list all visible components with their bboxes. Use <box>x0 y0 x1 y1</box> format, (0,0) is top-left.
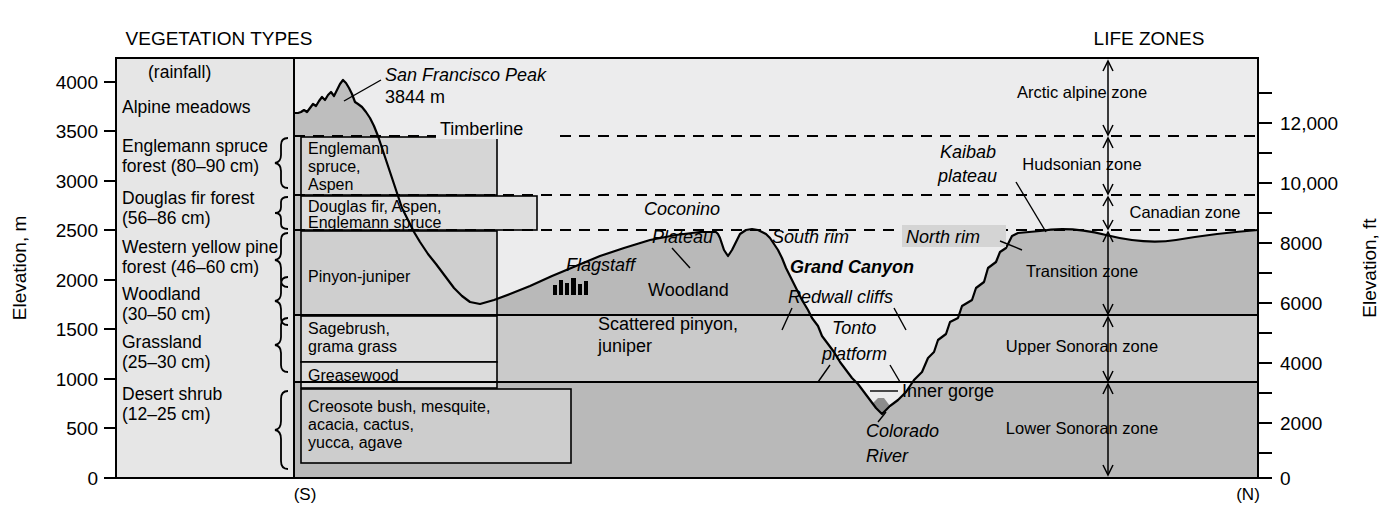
label-grand-canyon: Grand Canyon <box>790 257 914 277</box>
species-englemann-line2: spruce, <box>308 158 360 175</box>
left-tick-3500: 3500 <box>56 121 98 142</box>
left-tick-0: 0 <box>87 468 98 489</box>
veg-alpine-meadows: Alpine meadows <box>122 97 251 117</box>
species-douglas-line1: Douglas fir, Aspen, <box>308 198 441 215</box>
veg-westernpine-line2: forest (46–60 cm) <box>122 257 259 277</box>
zone-arctic-alpine: Arctic alpine zone <box>1017 83 1147 101</box>
right-tick-12000: 12,000 <box>1280 113 1338 134</box>
label-kaibab-2: plateau <box>937 166 997 186</box>
right-axis-title: Elevation, ft <box>1359 218 1380 318</box>
zone-canadian: Canadian zone <box>1129 203 1240 221</box>
label-redwall-cliffs: Redwall cliffs <box>788 287 893 307</box>
label-scattered-1: Scattered pinyon, <box>598 314 738 334</box>
left-tick-2000: 2000 <box>56 270 98 291</box>
label-flagstaff: Flagstaff <box>566 255 637 275</box>
label-peak-elevation: 3844 m <box>385 87 445 107</box>
veg-grassland-line1: Grassland <box>122 332 202 352</box>
south-marker: (S) <box>294 485 317 504</box>
right-tick-4000: 4000 <box>1280 353 1322 374</box>
label-woodland-mid: Woodland <box>648 280 729 300</box>
left-axis <box>104 82 116 478</box>
label-colorado-2: River <box>866 446 909 466</box>
species-sagebrush-line2: grama grass <box>308 338 397 355</box>
left-tick-1500: 1500 <box>56 319 98 340</box>
label-kaibab-1: Kaibab <box>940 142 996 162</box>
label-san-francisco-peak: San Francisco Peak <box>385 65 547 85</box>
veg-englemann-line2: forest (80–90 cm) <box>122 156 259 176</box>
label-scattered-2: juniper <box>597 336 652 356</box>
label-coconino-2: Plateau <box>652 227 713 247</box>
figure-root: VEGETATION TYPES LIFE ZONES Englemann sp… <box>0 0 1394 524</box>
species-englemann-line3: Aspen <box>308 176 353 193</box>
right-tick-2000: 2000 <box>1280 413 1322 434</box>
left-tick-4000: 4000 <box>56 72 98 93</box>
veg-douglas-line2: (56–86 cm) <box>122 208 211 228</box>
left-tick-3000: 3000 <box>56 171 98 192</box>
veg-woodland-line2: (30–50 cm) <box>122 304 211 324</box>
left-tick-500: 500 <box>66 418 98 439</box>
zone-transition: Transition zone <box>1026 262 1138 280</box>
header-vegetation-types: VEGETATION TYPES <box>126 28 313 49</box>
right-tick-8000: 8000 <box>1280 233 1322 254</box>
species-pinyon-line1: Pinyon-juniper <box>308 268 411 285</box>
label-coconino-1: Coconino <box>644 199 720 219</box>
veg-douglas-line1: Douglas fir forest <box>122 188 254 208</box>
veg-englemann-line1: Englemann spruce <box>122 136 268 156</box>
zone-hudsonian: Hudsonian zone <box>1022 155 1141 173</box>
left-tick-1000: 1000 <box>56 369 98 390</box>
veg-grassland-line2: (25–30 cm) <box>122 352 211 372</box>
rainfall-header: (rainfall) <box>148 62 211 82</box>
veg-desertshrub-line1: Desert shrub <box>122 384 222 404</box>
species-sagebrush-line1: Sagebrush, <box>308 320 390 337</box>
veg-desertshrub-line2: (12–25 cm) <box>122 404 211 424</box>
label-north-rim: North rim <box>906 227 980 247</box>
label-colorado-1: Colorado <box>866 421 939 441</box>
left-axis-title: Elevation, m <box>9 216 30 321</box>
cross-section-diagram: VEGETATION TYPES LIFE ZONES Englemann sp… <box>0 0 1394 524</box>
species-creosote-line1: Creosote bush, mesquite, <box>308 398 490 415</box>
species-englemann-line1: Englemann <box>308 140 389 157</box>
left-tick-2500: 2500 <box>56 220 98 241</box>
label-tonto-2: platform <box>821 344 887 364</box>
label-timberline: Timberline <box>440 119 523 139</box>
right-tick-10000: 10,000 <box>1280 173 1338 194</box>
zone-upper-sonoran: Upper Sonoran zone <box>1006 337 1158 355</box>
zone-lower-sonoran: Lower Sonoran zone <box>1006 419 1158 437</box>
right-tick-0: 0 <box>1280 468 1291 489</box>
veg-westernpine-line1: Western yellow pine <box>122 237 278 257</box>
north-marker: (N) <box>1236 485 1260 504</box>
label-south-rim: South rim <box>772 227 849 247</box>
header-life-zones: LIFE ZONES <box>1094 28 1205 49</box>
right-tick-6000: 6000 <box>1280 293 1322 314</box>
label-tonto-1: Tonto <box>832 318 876 338</box>
species-douglas-line2: Englemann spruce <box>308 214 442 231</box>
right-axis <box>1258 93 1272 478</box>
species-creosote-line2: acacia, cactus, <box>308 416 414 433</box>
label-inner-gorge: Inner gorge <box>902 381 994 401</box>
veg-woodland-line1: Woodland <box>122 284 201 304</box>
species-creosote-line3: yucca, agave <box>308 434 402 451</box>
